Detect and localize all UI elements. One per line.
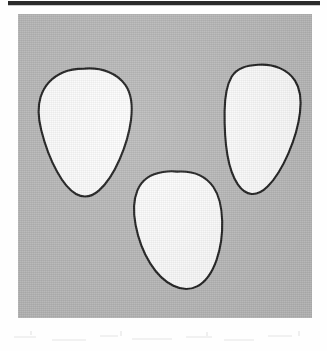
blob-right [225, 65, 301, 194]
figure-page [0, 0, 327, 351]
artifact-speck [30, 331, 32, 335]
artifact-speck [298, 331, 300, 336]
blob-left [39, 68, 132, 196]
artifact-mark [224, 339, 254, 341]
shapes-svg [18, 14, 312, 318]
artifact-speck [120, 331, 122, 336]
figure-caption [0, 344, 327, 351]
artifact-mark [100, 335, 118, 337]
blob-center [134, 171, 222, 289]
top-rule-shadow [8, 5, 320, 6]
artifact-mark [14, 336, 36, 338]
artifact-speck [206, 332, 208, 336]
artifact-mark [132, 338, 172, 340]
artifact-mark [186, 336, 212, 338]
artifact-mark [268, 335, 292, 337]
figure-panel [18, 14, 312, 318]
artifact-mark [52, 339, 86, 341]
shapes-layer [18, 14, 312, 318]
